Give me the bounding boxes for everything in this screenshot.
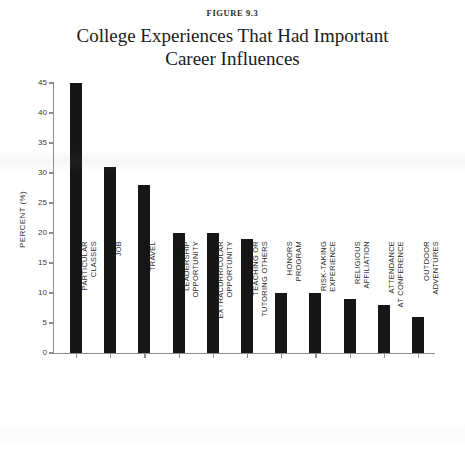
y-tick-label: 35 (17, 138, 47, 147)
x-axis-label: TRAVEL (149, 241, 158, 361)
y-tick-mark (49, 172, 53, 173)
x-tick-mark (179, 354, 180, 358)
y-tick-label: 25 (17, 198, 47, 207)
x-tick-mark (213, 354, 214, 358)
y-tick-mark (49, 112, 53, 113)
y-tick-mark (49, 232, 53, 233)
x-axis-label: TEACHING OR TUTORING OTHERS (252, 241, 269, 361)
y-tick-mark (49, 82, 53, 83)
x-axis-label: OUTDOOR ADVENTURES (423, 241, 440, 361)
x-tick-mark (144, 354, 145, 358)
x-axis-label: ATTENDANCE AT CONFERENCE (388, 241, 405, 361)
x-axis-label: EXTRACURRICULAR OPPORTUNITY (217, 241, 234, 361)
y-tick-mark (49, 202, 53, 203)
y-axis-title: PERCENT (%) (18, 180, 27, 260)
y-tick-label: 20 (17, 228, 47, 237)
x-axis-label: RELIGIOUS AFFILIATION (354, 241, 371, 361)
x-axis-label: PARTICULAR CLASSES (81, 241, 98, 361)
x-tick-mark (315, 354, 316, 358)
x-tick-mark (281, 354, 282, 358)
y-tick-mark (49, 352, 53, 353)
x-tick-mark (247, 354, 248, 358)
y-tick-mark (49, 292, 53, 293)
x-axis-label: HONORS PROGRAM (286, 241, 303, 361)
x-tick-mark (76, 354, 77, 358)
x-tick-mark (110, 354, 111, 358)
y-tick-mark (49, 262, 53, 263)
x-tick-mark (418, 354, 419, 358)
y-axis-line (53, 82, 54, 354)
x-axis-label: RISK-TAKING EXPERIENCE (320, 241, 337, 361)
x-tick-mark (384, 354, 385, 358)
y-tick-label: 0 (17, 348, 47, 357)
y-tick-label: 10 (17, 288, 47, 297)
y-tick-mark (49, 322, 53, 323)
y-tick-label: 15 (17, 258, 47, 267)
bar-chart-plot: PERCENT (%) 454035302520151050 PARTICULA… (0, 0, 465, 469)
y-tick-label: 30 (17, 168, 47, 177)
y-tick-label: 45 (17, 78, 47, 87)
x-axis-label: JOB (115, 241, 124, 361)
x-tick-mark (350, 354, 351, 358)
y-tick-label: 40 (17, 108, 47, 117)
x-axis-label: LEADERSHIP OPPORTUNITY (183, 241, 200, 361)
y-tick-mark (49, 142, 53, 143)
y-tick-label: 5 (17, 318, 47, 327)
